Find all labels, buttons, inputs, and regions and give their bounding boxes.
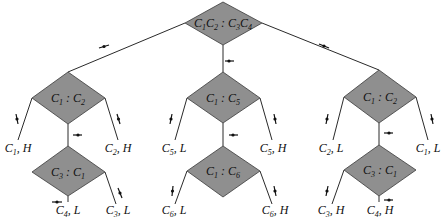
svg-text:C1 : C2: C1 : C2: [51, 91, 85, 107]
svg-text:C1 : C5: C1 : C5: [206, 91, 240, 107]
svg-text:C2, H: C2, H: [105, 141, 133, 157]
svg-text:C5, H: C5, H: [260, 141, 288, 157]
svg-text:C6, H: C6, H: [262, 203, 290, 219]
node-right: C1 : C2: [344, 70, 416, 123]
svg-text:C1 : C6: C1 : C6: [206, 164, 240, 180]
svg-text:C3 : C1: C3 : C1: [363, 163, 397, 179]
svg-text:C1, H: C1, H: [5, 141, 33, 157]
svg-text:C5, L: C5, L: [162, 141, 187, 157]
svg-text:C1, L: C1, L: [416, 141, 441, 157]
svg-text:C1 : C2: C1 : C2: [363, 90, 397, 106]
svg-text:C6, L: C6, L: [162, 203, 187, 219]
svg-text:C4, L: C4, L: [56, 203, 81, 219]
node-right-child: C3 : C1: [344, 145, 416, 196]
svg-text:C4, H: C4, H: [367, 203, 395, 219]
svg-text:C3, L: C3, L: [106, 203, 131, 219]
node-middle-child: C1 : C6: [187, 146, 260, 197]
decision-tree-diagram: C1C2 : C3C4 C1 : C2 C3 : C1 C1 : C5 C1 :…: [0, 0, 444, 219]
node-middle: C1 : C5: [187, 72, 260, 123]
node-root: C1C2 : C3C4: [185, 2, 262, 45]
node-left: C1 : C2: [32, 72, 105, 124]
svg-text:C2, L: C2, L: [319, 141, 344, 157]
node-left-child: C3 : C1: [32, 146, 105, 196]
svg-text:C3, H: C3, H: [318, 203, 346, 219]
svg-text:C3 : C1: C3 : C1: [51, 165, 85, 181]
